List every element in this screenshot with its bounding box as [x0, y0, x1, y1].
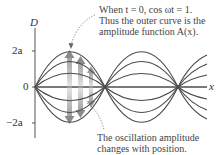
y-axis-label: D	[30, 17, 38, 28]
bottom-annotation-line-1: The oscillation amplitude	[97, 132, 199, 143]
bottom-leader-line	[87, 103, 104, 130]
top-annotation-line-3: amplitude function A(x).	[99, 26, 205, 37]
top-annotation: When t = 0, cos ωt = 1. Thus the outer c…	[99, 4, 205, 37]
bottom-annotation: The oscillation amplitude changes with p…	[97, 132, 199, 154]
top-annotation-line-2: Thus the outer curve is the	[99, 15, 205, 26]
tick-label-neg-2a: −2a	[6, 117, 23, 128]
tick-label-0: 0	[23, 81, 29, 92]
tick-label-2a: 2a	[12, 45, 22, 56]
top-annotation-line-1: When t = 0, cos ωt = 1.	[99, 4, 205, 15]
bottom-annotation-line-2: changes with position.	[97, 143, 199, 154]
wave-curves	[35, 52, 207, 123]
top-leader-line	[71, 15, 95, 45]
x-axis-label: x	[209, 81, 214, 92]
